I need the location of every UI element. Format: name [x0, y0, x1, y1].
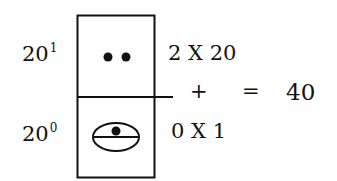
- result-value: 40: [286, 81, 315, 104]
- equals-operator: =: [242, 81, 260, 102]
- shell-zero-icon: [93, 123, 139, 151]
- expression-row-1: 2 X 20: [168, 43, 236, 64]
- place-label-20-0: 200: [22, 124, 57, 145]
- plus-operator: +: [190, 81, 208, 102]
- expression-row-0: 0 X 1: [171, 121, 226, 142]
- place-label-20-1: 201: [22, 44, 57, 65]
- two-dots-icon: [104, 53, 131, 62]
